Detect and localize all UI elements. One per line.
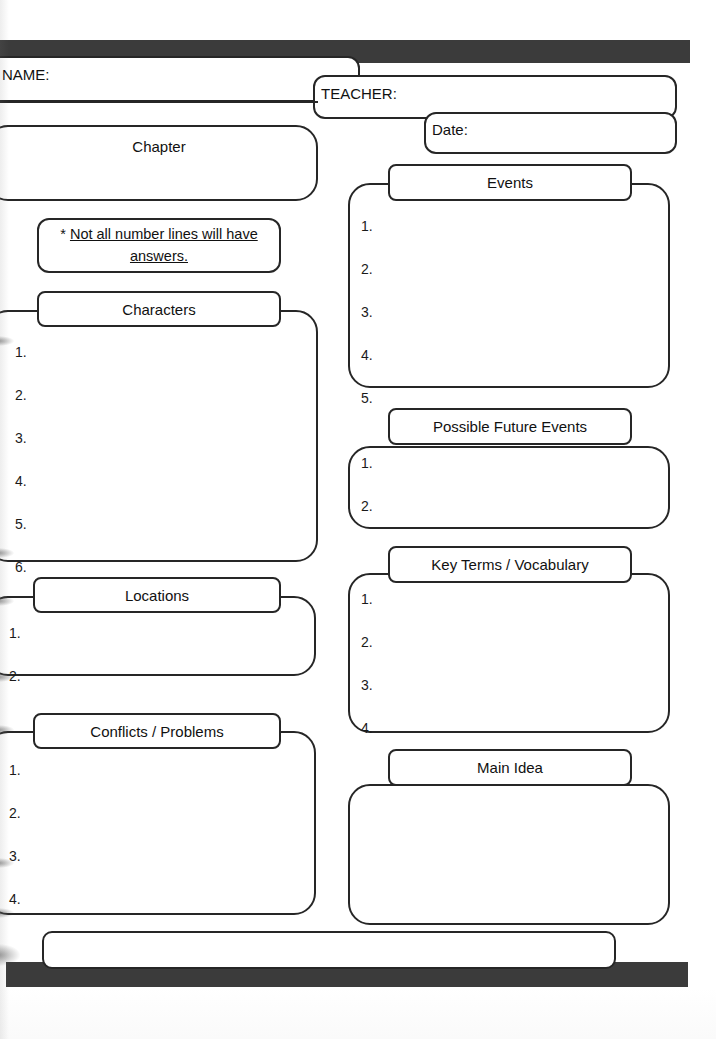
- events-body-box[interactable]: [348, 183, 670, 388]
- list-item: 1.: [9, 763, 21, 777]
- list-item: 3.: [361, 305, 373, 319]
- key-terms-body-box[interactable]: [348, 573, 670, 733]
- list-item: 1.: [361, 592, 373, 606]
- list-item: 2.: [9, 669, 21, 683]
- list-item: 4.: [361, 721, 373, 735]
- note-line-2: answers.: [130, 248, 188, 264]
- main-idea-body-box[interactable]: [348, 784, 670, 925]
- conflicts-body-box[interactable]: [0, 731, 316, 915]
- main-idea-title: Main Idea: [477, 759, 543, 776]
- locations-title: Locations: [125, 587, 189, 604]
- locations-number-list: 1. 2.: [9, 626, 21, 683]
- name-field-label: NAME:: [2, 66, 50, 83]
- date-field-label: Date:: [432, 121, 468, 138]
- characters-number-list: 1. 2. 3. 4. 5. 6.: [15, 345, 27, 574]
- list-item: 4.: [9, 892, 21, 906]
- list-item: 3.: [361, 678, 373, 692]
- locations-header-box: Locations: [33, 577, 281, 613]
- worksheet-page: NAME: TEACHER: Date: Chapter * Not all n…: [0, 0, 716, 1039]
- note-asterisk: *: [60, 226, 70, 242]
- name-field-box[interactable]: [0, 56, 360, 102]
- characters-body-box[interactable]: [0, 310, 318, 562]
- list-item: 5.: [361, 391, 373, 405]
- list-item: 4.: [361, 348, 373, 362]
- list-item: 2.: [15, 388, 27, 402]
- list-item: 1.: [9, 626, 21, 640]
- list-item: 2.: [9, 806, 21, 820]
- list-item: 6.: [15, 560, 27, 574]
- events-title: Events: [487, 174, 533, 191]
- future-events-body-box[interactable]: [348, 446, 670, 529]
- list-item: 2.: [361, 635, 373, 649]
- characters-header-box: Characters: [37, 291, 281, 327]
- conflicts-title: Conflicts / Problems: [90, 723, 223, 740]
- events-number-list: 1. 2. 3. 4. 5.: [361, 219, 373, 405]
- characters-title: Characters: [122, 301, 195, 318]
- key-terms-number-list: 1. 2. 3. 4.: [361, 592, 373, 735]
- chapter-title: Chapter: [0, 138, 318, 155]
- number-lines-note: * Not all number lines will have answers…: [37, 218, 281, 273]
- teacher-field-label: TEACHER:: [321, 85, 397, 102]
- conflicts-number-list: 1. 2. 3. 4.: [9, 763, 21, 906]
- list-item: 1.: [361, 219, 373, 233]
- main-idea-header-box: Main Idea: [388, 749, 632, 786]
- events-header-box: Events: [388, 164, 632, 201]
- list-item: 5.: [15, 517, 27, 531]
- note-line-1: Not all number lines will have: [70, 226, 258, 242]
- list-item: 3.: [15, 431, 27, 445]
- future-events-title: Possible Future Events: [433, 418, 587, 435]
- list-item: 3.: [9, 849, 21, 863]
- key-terms-header-box: Key Terms / Vocabulary: [388, 546, 632, 583]
- list-item: 2.: [361, 499, 373, 513]
- name-write-line: [0, 101, 318, 103]
- footer-answer-box[interactable]: [42, 931, 616, 969]
- list-item: 2.: [361, 262, 373, 276]
- future-events-number-list: 1. 2.: [361, 456, 373, 513]
- chapter-box[interactable]: [0, 125, 318, 201]
- future-events-header-box: Possible Future Events: [388, 408, 632, 445]
- list-item: 1.: [361, 456, 373, 470]
- conflicts-header-box: Conflicts / Problems: [33, 713, 281, 749]
- list-item: 4.: [15, 474, 27, 488]
- list-item: 1.: [15, 345, 27, 359]
- key-terms-title: Key Terms / Vocabulary: [431, 556, 588, 573]
